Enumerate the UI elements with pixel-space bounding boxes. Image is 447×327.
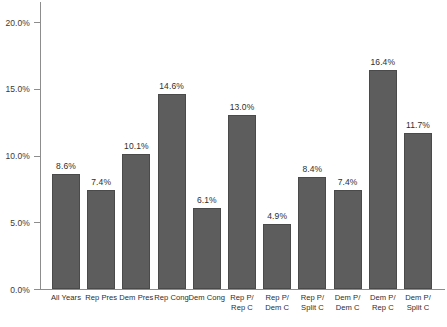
y-axis-tick: 10.0%: [34, 156, 40, 157]
bar-value-label: 7.4%: [338, 177, 358, 187]
plot-area: 8.6%7.4%10.1%14.6%6.1%13.0%4.9%8.4%7.4%1…: [41, 2, 445, 289]
bars-layer: 8.6%7.4%10.1%14.6%6.1%13.0%4.9%8.4%7.4%1…: [41, 2, 445, 289]
bar-group[interactable]: 4.9%: [263, 2, 291, 289]
bar[interactable]: [193, 208, 221, 289]
bar-value-label: 8.4%: [303, 164, 323, 174]
bar-group[interactable]: 10.1%: [122, 2, 150, 289]
y-axis-tick: 15.0%: [34, 89, 40, 90]
bar-value-label: 14.6%: [159, 81, 184, 91]
bar-value-label: 8.6%: [56, 161, 76, 171]
bar-value-label: 6.1%: [197, 195, 217, 205]
bar-group[interactable]: 11.7%: [404, 2, 432, 289]
bar-group[interactable]: 7.4%: [87, 2, 115, 289]
bar[interactable]: [87, 190, 115, 289]
x-axis-category-label-line: Split C: [392, 303, 444, 313]
bar[interactable]: [404, 133, 432, 289]
y-axis-tick: 0.0%: [34, 289, 40, 290]
bar-value-label: 7.4%: [91, 177, 111, 187]
bar[interactable]: [298, 177, 326, 289]
bar-group[interactable]: 8.4%: [298, 2, 326, 289]
x-axis-category-label: Dem P/Split C: [392, 293, 444, 312]
bar[interactable]: [263, 224, 291, 289]
y-axis-tick-label: 5.0%: [10, 218, 30, 228]
bar-group[interactable]: 6.1%: [193, 2, 221, 289]
y-axis-tick-label: 15.0%: [5, 84, 30, 94]
y-axis-tick: 5.0%: [34, 222, 40, 223]
bar-group[interactable]: 14.6%: [158, 2, 186, 289]
y-axis-tick-label: 20.0%: [5, 18, 30, 28]
bar[interactable]: [369, 70, 397, 289]
bar-group[interactable]: 7.4%: [334, 2, 362, 289]
bar-group[interactable]: 13.0%: [228, 2, 256, 289]
x-axis-line: [40, 289, 445, 290]
bar-value-label: 16.4%: [370, 57, 395, 67]
bar[interactable]: [122, 154, 150, 289]
bar[interactable]: [228, 115, 256, 289]
bar-value-label: 10.1%: [124, 141, 149, 151]
y-axis-tick-label: 10.0%: [5, 151, 30, 161]
bar-group[interactable]: 8.6%: [52, 2, 80, 289]
bar-value-label: 13.0%: [230, 102, 255, 112]
bar[interactable]: [158, 94, 186, 289]
bar-value-label: 4.9%: [267, 211, 287, 221]
bar-value-label: 11.7%: [406, 120, 430, 130]
bar[interactable]: [52, 174, 80, 289]
bar-group[interactable]: 16.4%: [369, 2, 397, 289]
bar-chart: 0.0%5.0%10.0%15.0%20.0% 8.6%7.4%10.1%14.…: [0, 0, 447, 327]
y-axis-tick: 20.0%: [34, 22, 40, 23]
bar[interactable]: [334, 190, 362, 289]
x-axis-category-labels: All YearsRep PresDem PresRep CongDem Con…: [0, 293, 447, 327]
x-axis-category-label-line: Dem P/: [392, 293, 444, 303]
